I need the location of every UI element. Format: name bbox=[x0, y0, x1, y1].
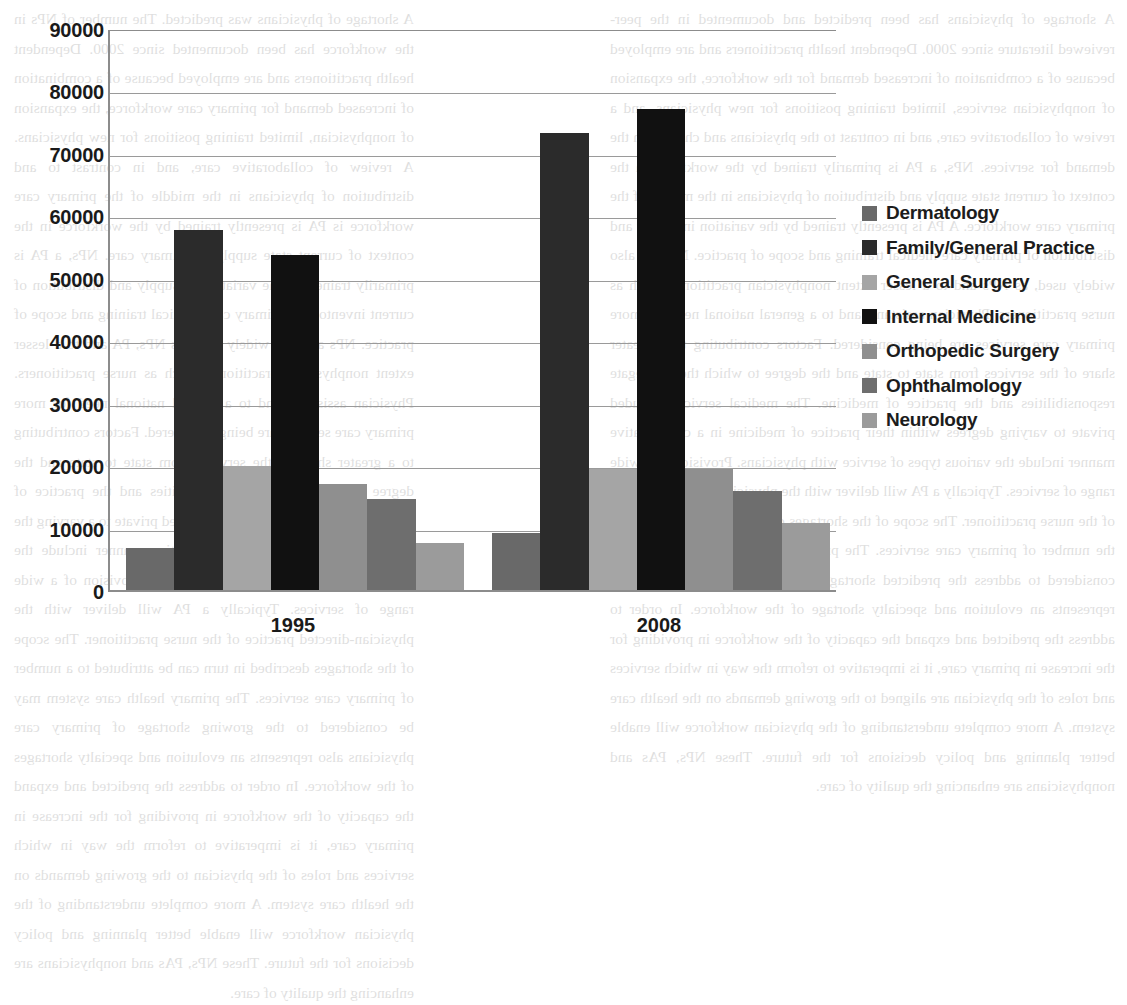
bar-group-1995 bbox=[126, 31, 464, 590]
legend-swatch-icon bbox=[862, 344, 877, 359]
bar-1995-family-general-practice bbox=[174, 230, 222, 590]
plot-area bbox=[108, 30, 836, 592]
y-axis-tick-labels: 9000080000700006000050000400003000020000… bbox=[0, 0, 104, 669]
bar-1995-general-surgery bbox=[223, 466, 271, 590]
y-axis-tick-70000: 70000 bbox=[8, 143, 104, 166]
bar-2008-general-surgery bbox=[589, 469, 637, 590]
bar-2008-internal-medicine bbox=[637, 109, 685, 590]
bar-1995-neurology bbox=[416, 543, 464, 590]
legend-swatch-icon bbox=[862, 275, 877, 290]
bar-2008-family-general-practice bbox=[540, 133, 588, 590]
legend-item-dermatology[interactable]: Dermatology bbox=[862, 196, 1120, 231]
legend-item-label: Ophthalmology bbox=[886, 375, 1021, 397]
legend-item-label: Neurology bbox=[886, 409, 977, 431]
bar-1995-orthopedic-surgery bbox=[319, 484, 367, 590]
y-axis-tick-60000: 60000 bbox=[8, 206, 104, 229]
legend-item-label: Internal Medicine bbox=[886, 306, 1036, 328]
legend-item-orthopedic-surgery[interactable]: Orthopedic Surgery bbox=[862, 334, 1120, 369]
legend-item-label: General Surgery bbox=[886, 271, 1029, 293]
y-axis-tick-80000: 80000 bbox=[8, 81, 104, 104]
bar-1995-internal-medicine bbox=[271, 255, 319, 590]
legend-item-family-general-practice[interactable]: Family/General Practice bbox=[862, 231, 1120, 266]
legend-item-ophthalmology[interactable]: Ophthalmology bbox=[862, 369, 1120, 404]
bar-group-2008 bbox=[492, 31, 830, 590]
legend-item-label: Family/General Practice bbox=[886, 237, 1095, 259]
bar-2008-dermatology bbox=[492, 533, 540, 590]
x-axis-tick-label-1995: 1995 bbox=[124, 614, 462, 637]
legend-item-general-surgery[interactable]: General Surgery bbox=[862, 265, 1120, 300]
legend-item-label: Orthopedic Surgery bbox=[886, 340, 1059, 362]
y-axis-tick-40000: 40000 bbox=[8, 331, 104, 354]
legend-swatch-icon bbox=[862, 309, 877, 324]
y-axis-tick-10000: 10000 bbox=[8, 518, 104, 541]
bar-2008-ophthalmology bbox=[733, 491, 781, 590]
x-axis-tick-label-2008: 2008 bbox=[490, 614, 828, 637]
legend-item-label: Dermatology bbox=[886, 202, 999, 224]
legend-swatch-icon bbox=[862, 206, 877, 221]
bar-groups bbox=[110, 31, 836, 590]
bar-1995-dermatology bbox=[126, 548, 174, 590]
bar-2008-orthopedic-surgery bbox=[685, 469, 733, 590]
y-axis-tick-50000: 50000 bbox=[8, 268, 104, 291]
legend-swatch-icon bbox=[862, 378, 877, 393]
bar-1995-ophthalmology bbox=[367, 499, 415, 590]
y-axis-tick-30000: 30000 bbox=[8, 393, 104, 416]
legend-item-neurology[interactable]: Neurology bbox=[862, 403, 1120, 438]
y-axis-tick-90000: 90000 bbox=[8, 19, 104, 42]
legend-item-internal-medicine[interactable]: Internal Medicine bbox=[862, 300, 1120, 335]
chart-legend: DermatologyFamily/General PracticeGenera… bbox=[862, 196, 1120, 438]
y-axis-tick-20000: 20000 bbox=[8, 456, 104, 479]
y-axis-tick-0: 0 bbox=[8, 581, 104, 604]
legend-swatch-icon bbox=[862, 240, 877, 255]
bar-2008-neurology bbox=[782, 523, 830, 590]
legend-swatch-icon bbox=[862, 413, 877, 428]
